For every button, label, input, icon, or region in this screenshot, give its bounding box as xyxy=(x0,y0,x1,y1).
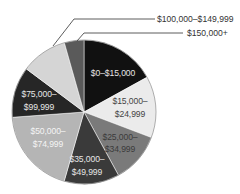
callout-label-100k-149k: $100,000–$149,999 xyxy=(157,14,234,24)
callout-label-150k-plus: $150,000+ xyxy=(187,28,228,38)
leader-line-150k-plus xyxy=(77,33,183,41)
slice-label-0-15k: $0–$15,000 xyxy=(91,68,136,78)
slice-label-75k-100k-line2: $99,999 xyxy=(24,102,55,112)
slice-label-15k-25k-line1: $15,000– xyxy=(112,96,147,106)
slice-label-50k-75k-line2: $74,999 xyxy=(33,139,64,149)
income-pie-chart: $100,000–$149,999 $150,000+ $0–$15,000 $… xyxy=(0,0,240,194)
slice-label-15k-25k-line2: $24,999 xyxy=(115,109,146,119)
slice-label-50k-75k-line1: $50,000– xyxy=(30,126,65,136)
slice-label-35k-50k-line2: $49,999 xyxy=(72,167,103,177)
slice-label-25k-35k-line2: $34,999 xyxy=(105,144,136,154)
slice-label-35k-50k-line1: $35,000– xyxy=(69,154,104,164)
slice-label-75k-100k-line1: $75,000– xyxy=(21,89,56,99)
slice-label-25k-35k-line1: $25,000– xyxy=(102,132,137,142)
